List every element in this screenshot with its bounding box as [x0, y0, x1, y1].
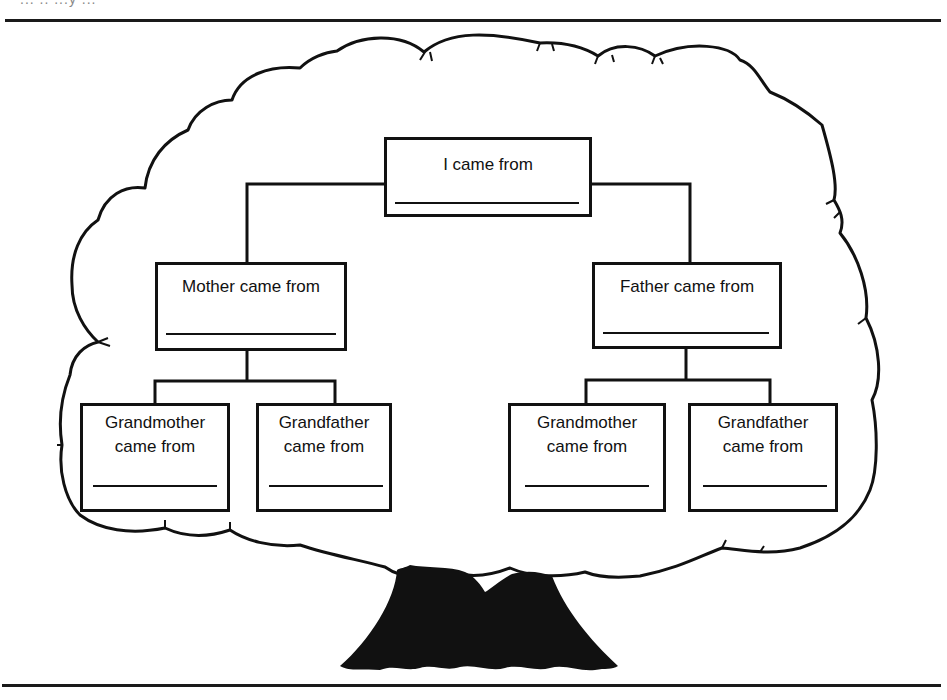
- root-box: I came from: [384, 137, 592, 217]
- maternal-grandfather-box: Grandfather came from: [256, 403, 392, 512]
- tree-trunk: [340, 565, 618, 670]
- connector-root-mother: [247, 184, 384, 262]
- root-blank-line[interactable]: [395, 202, 579, 204]
- maternal-grandmother-blank-line[interactable]: [93, 485, 217, 487]
- father-label: Father came from: [595, 276, 779, 298]
- connector-root-father: [592, 184, 690, 262]
- maternal-grandmother-label-line1: Grandmother: [83, 412, 227, 434]
- mother-blank-line[interactable]: [166, 333, 336, 335]
- paternal-grandfather-box: Grandfather came from: [688, 403, 838, 512]
- connector-paternal-grandparents: [586, 380, 770, 403]
- maternal-grandmother-label-line2: came from: [83, 436, 227, 458]
- tree-illustration: [0, 0, 947, 700]
- paternal-grandmother-box: Grandmother came from: [508, 403, 666, 512]
- father-box: Father came from: [592, 262, 782, 349]
- father-blank-line[interactable]: [603, 332, 769, 334]
- maternal-grandfather-label-line2: came from: [259, 436, 389, 458]
- mother-label: Mother came from: [158, 276, 344, 298]
- paternal-grandmother-label-line2: came from: [511, 436, 663, 458]
- paternal-grandmother-blank-line[interactable]: [525, 485, 649, 487]
- paternal-grandmother-label-line1: Grandmother: [511, 412, 663, 434]
- paternal-grandfather-label-line1: Grandfather: [691, 412, 835, 434]
- paternal-grandfather-blank-line[interactable]: [703, 485, 827, 487]
- maternal-grandmother-box: Grandmother came from: [80, 403, 230, 512]
- connector-maternal-grandparents: [155, 381, 335, 403]
- root-label: I came from: [387, 154, 589, 176]
- paternal-grandfather-label-line2: came from: [691, 436, 835, 458]
- maternal-grandfather-blank-line[interactable]: [269, 485, 383, 487]
- maternal-grandfather-label-line1: Grandfather: [259, 412, 389, 434]
- mother-box: Mother came from: [155, 262, 347, 351]
